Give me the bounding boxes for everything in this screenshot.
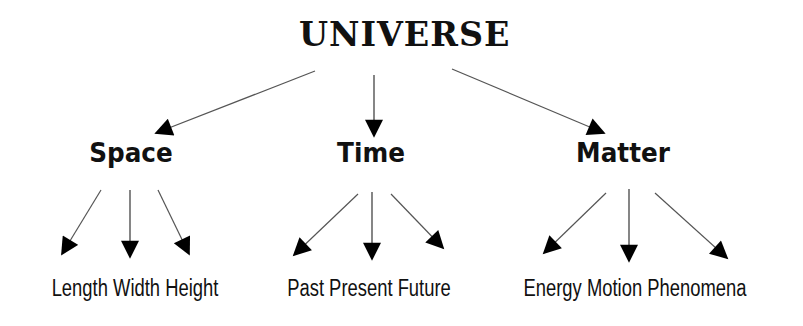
leaf-group-matter: Energy Motion Phenomena	[507, 275, 763, 302]
arrow-universe-to-space	[156, 71, 315, 133]
root-arrows	[156, 69, 604, 136]
arrow-matter-to-energy	[544, 193, 606, 253]
category-node-matter: Matter	[557, 138, 690, 168]
category-node-space: Space	[65, 138, 198, 168]
time-arrows	[294, 192, 443, 259]
leaf-group-time: Past Present Future	[277, 275, 461, 302]
arrow-time-to-future	[391, 194, 443, 248]
arrow-space-to-height	[158, 190, 189, 254]
root-node-universe: UNIVERSE	[299, 14, 495, 54]
arrow-time-to-past	[294, 194, 358, 255]
arrow-universe-to-matter	[452, 69, 604, 133]
space-arrows	[62, 190, 189, 257]
category-node-time: Time	[305, 138, 438, 168]
arrow-space-to-length	[62, 190, 101, 254]
leaf-group-space: Length Width Height	[39, 275, 231, 302]
arrow-matter-to-phenomena	[655, 193, 727, 258]
universe-tree-diagram: UNIVERSE Space Time Matter Length Width …	[0, 0, 803, 326]
matter-arrows	[544, 189, 727, 261]
